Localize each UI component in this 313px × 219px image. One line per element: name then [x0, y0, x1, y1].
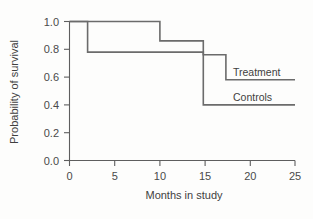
y-tick-label: 0.8: [44, 43, 59, 55]
y-tick-label: 0.2: [44, 127, 59, 139]
y-axis-title: Probability of survival: [8, 40, 20, 144]
y-tick-label: 0.0: [44, 155, 59, 167]
x-axis-title: Months in study: [145, 189, 223, 201]
x-tick-labels: 0 5 10 15 20 25: [66, 170, 301, 182]
treatment-series-label: Treatment: [233, 66, 281, 78]
y-tick-label: 0.4: [44, 99, 59, 111]
x-tick-label: 15: [199, 170, 211, 182]
controls-series-label: Controls: [233, 91, 272, 103]
x-tick-label: 20: [244, 170, 256, 182]
x-tick-marks: [70, 161, 296, 167]
x-tick-label: 25: [289, 170, 301, 182]
y-tick-label: 1.0: [44, 16, 59, 28]
survival-curve-figure: 1.0 0.8 0.6 0.4 0.2 0.0 0 5 10 15 20 25 …: [0, 0, 313, 219]
x-tick-label: 0: [66, 170, 72, 182]
y-tick-labels: 1.0 0.8 0.6 0.4 0.2 0.0: [44, 16, 59, 167]
plot-svg: 1.0 0.8 0.6 0.4 0.2 0.0 0 5 10 15 20 25 …: [0, 0, 313, 219]
x-tick-label: 10: [154, 170, 166, 182]
y-tick-label: 0.6: [44, 71, 59, 83]
x-tick-label: 5: [112, 170, 118, 182]
y-tick-marks: [64, 22, 70, 161]
